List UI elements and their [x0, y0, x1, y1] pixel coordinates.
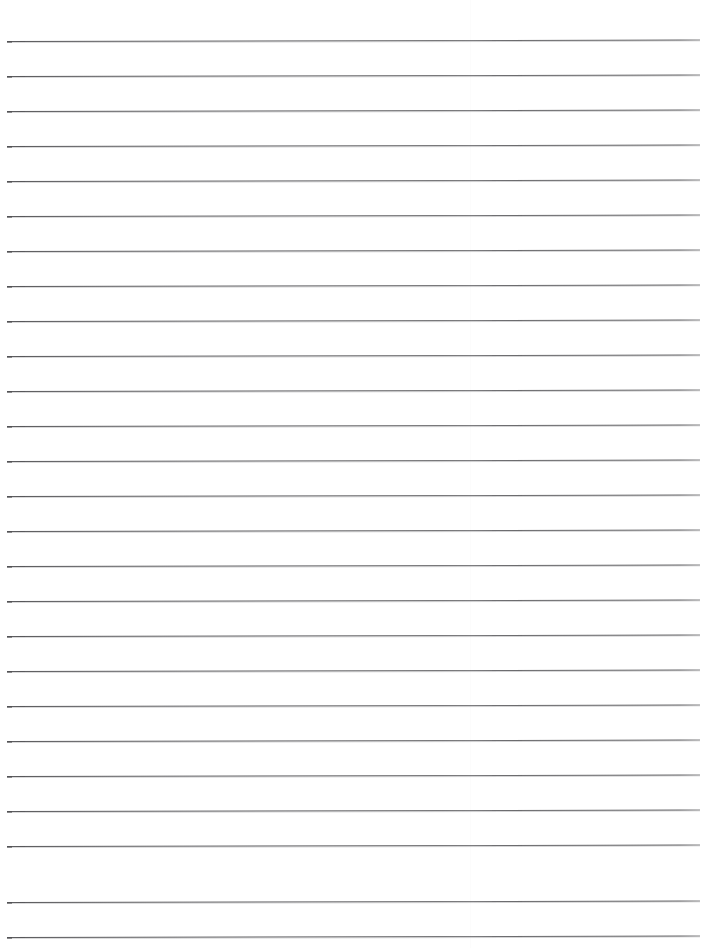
page-handwriting-area[interactable] [0, 0, 706, 948]
scanned-page [0, 0, 706, 948]
